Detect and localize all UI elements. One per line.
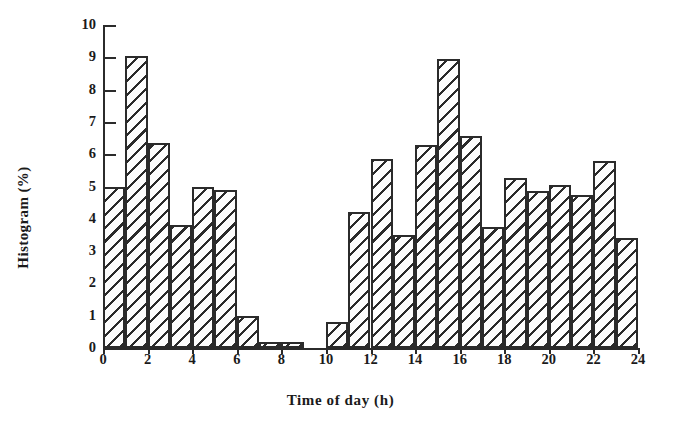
bar-7-8: [259, 342, 281, 348]
x-tick-label-12: 12: [353, 352, 389, 367]
plot-area: [103, 25, 638, 348]
x-tick-label-20: 20: [531, 352, 567, 367]
bar-13-14: [393, 235, 415, 348]
x-tick-label-0: 0: [85, 352, 121, 367]
bar-3-4: [170, 225, 192, 348]
x-tick-label-14: 14: [397, 352, 433, 367]
bar-1-2: [125, 56, 147, 348]
histogram-chart: Histogram (%) 012345678910 0246810121416…: [0, 0, 681, 434]
x-tick-label-22: 22: [575, 352, 611, 367]
x-tick-label-6: 6: [219, 352, 255, 367]
x-tick-label-4: 4: [174, 352, 210, 367]
bar-14-15: [415, 145, 437, 348]
bar-20-21: [549, 185, 571, 348]
bar-18-19: [504, 178, 526, 348]
bar-5-6: [214, 190, 236, 348]
x-tick-label-18: 18: [486, 352, 522, 367]
y-axis-title-label: Histogram (%): [15, 166, 32, 268]
x-tick-label-10: 10: [308, 352, 344, 367]
y-tick-label-6: 6: [66, 146, 96, 161]
bar-21-22: [571, 195, 593, 348]
bar-4-5: [192, 187, 214, 349]
y-tick-label-5: 5: [66, 179, 96, 194]
bar-16-17: [460, 136, 482, 348]
bars-layer: [103, 25, 638, 348]
bar-19-20: [527, 191, 549, 348]
bar-10-11: [326, 322, 348, 348]
y-tick-label-7: 7: [66, 114, 96, 129]
bar-15-16: [437, 59, 459, 348]
bar-0-1: [103, 187, 125, 349]
y-tick-label-9: 9: [66, 49, 96, 64]
x-tick-label-24: 24: [620, 352, 656, 367]
y-tick-label-1: 1: [66, 308, 96, 323]
bar-23-24: [616, 238, 638, 348]
x-axis-title: Time of day (h): [0, 392, 681, 409]
y-tick-0: [105, 348, 116, 350]
bar-22-23: [593, 161, 615, 348]
x-axis-title-label: Time of day (h): [287, 392, 394, 408]
y-tick-label-10: 10: [66, 17, 96, 32]
y-tick-label-4: 4: [66, 211, 96, 226]
bar-11-12: [348, 212, 370, 348]
y-tick-label-3: 3: [66, 243, 96, 258]
y-tick-label-8: 8: [66, 82, 96, 97]
y-axis-tick-labels: 012345678910: [62, 25, 96, 348]
x-tick-label-2: 2: [130, 352, 166, 367]
y-tick-label-2: 2: [66, 275, 96, 290]
x-tick-label-16: 16: [442, 352, 478, 367]
bar-6-7: [237, 316, 259, 348]
bar-8-9: [281, 342, 303, 348]
bar-17-18: [482, 227, 504, 348]
bar-2-3: [148, 143, 170, 348]
y-axis-title: Histogram (%): [6, 0, 40, 434]
x-tick-label-8: 8: [263, 352, 299, 367]
bar-12-13: [371, 159, 393, 348]
